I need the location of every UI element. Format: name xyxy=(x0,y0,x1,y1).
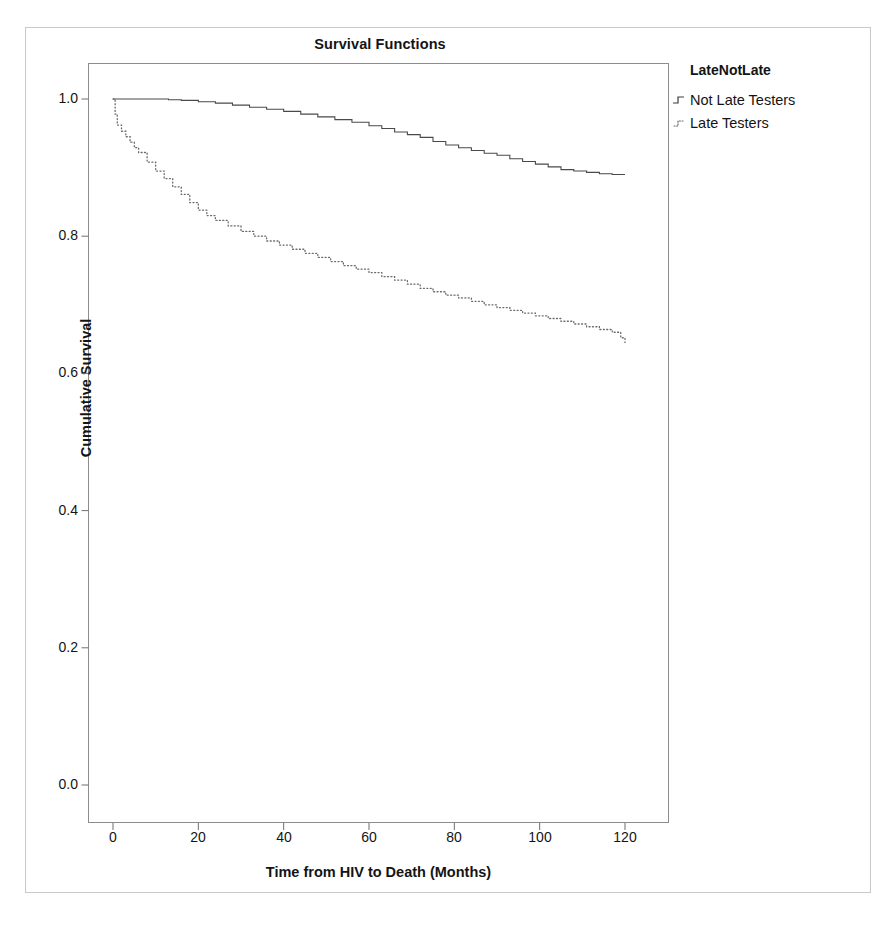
xtick-label-120: 120 xyxy=(601,829,649,845)
legend: LateNotLate Not Late Testers Late Tester… xyxy=(672,62,862,135)
x-axis-label: Time from HIV to Death (Months) xyxy=(88,864,669,880)
legend-item-late-testers[interactable]: Late Testers xyxy=(672,112,862,134)
ytick-label-0.2: 0.2 xyxy=(26,639,78,655)
xtick-label-40: 40 xyxy=(260,829,308,845)
survival-chart: Survival Functions 1.0 0.8 0.6 0.4 0.2 0… xyxy=(0,0,891,928)
ytick-label-0.0: 0.0 xyxy=(26,776,78,792)
plot-area xyxy=(88,63,669,823)
legend-item-not-late-testers[interactable]: Not Late Testers xyxy=(672,89,862,111)
xtick-label-60: 60 xyxy=(345,829,393,845)
xtick-label-80: 80 xyxy=(430,829,478,845)
legend-title: LateNotLate xyxy=(690,62,862,78)
y-axis-label: Cumulative Survival xyxy=(78,278,94,498)
legend-label-late-testers: Late Testers xyxy=(690,116,769,131)
ytick-label-0.4: 0.4 xyxy=(26,502,78,518)
ytick-label-0.8: 0.8 xyxy=(26,227,78,243)
xtick-label-100: 100 xyxy=(516,829,564,845)
legend-label-not-late-testers: Not Late Testers xyxy=(690,93,795,108)
ytick-label-1.0: 1.0 xyxy=(26,90,78,106)
xtick-label-20: 20 xyxy=(174,829,222,845)
y-axis-label-wrap: Cumulative Survival xyxy=(42,380,62,400)
legend-key-solid-step-icon xyxy=(672,93,690,107)
chart-title: Survival Functions xyxy=(0,36,760,52)
legend-key-dotted-step-icon xyxy=(672,116,690,130)
ytick-label-0.6: 0.6 xyxy=(26,364,78,380)
xtick-label-0: 0 xyxy=(89,829,137,845)
